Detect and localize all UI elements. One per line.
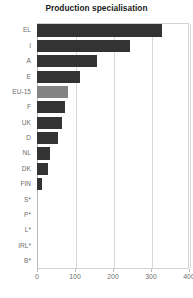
- category-label-dk: DK: [22, 166, 31, 173]
- category-label-f: F: [27, 104, 31, 111]
- bar-uk: [37, 117, 62, 129]
- bar-row: [37, 115, 189, 130]
- bar-e: [37, 71, 80, 83]
- category-label-row: I: [0, 38, 34, 53]
- bars-layer: [37, 23, 189, 269]
- category-label-i: I: [29, 43, 31, 50]
- bar-row: [37, 100, 189, 115]
- bar-row: [37, 146, 189, 161]
- xtick-mark-0: [37, 269, 38, 272]
- bar-row: [37, 38, 189, 53]
- bar-row: [37, 161, 189, 176]
- bar-i: [37, 40, 130, 52]
- category-label-b: B*: [24, 258, 31, 265]
- bar-row: [37, 85, 189, 100]
- category-label-a: A: [27, 58, 31, 65]
- bar-f: [37, 101, 65, 113]
- xtick-mark-400: [189, 269, 190, 272]
- category-label-fin: FIN: [20, 181, 31, 188]
- category-label-row: UK: [0, 115, 34, 130]
- bar-row: [37, 131, 189, 146]
- bar-row: [37, 254, 189, 269]
- gridline-400: [190, 24, 191, 268]
- category-label-row: DK: [0, 161, 34, 176]
- chart-title: Production specialisation: [0, 3, 193, 13]
- category-label-row: NL: [0, 146, 34, 161]
- xtick-mark-300: [151, 269, 152, 272]
- xtick-label-100: 100: [69, 274, 80, 281]
- category-label-row: P*: [0, 208, 34, 223]
- category-label-row: L*: [0, 223, 34, 238]
- category-label-row: EU-15: [0, 85, 34, 100]
- value-axis: 0100200300400: [37, 269, 189, 293]
- bar-el: [37, 24, 162, 36]
- xtick-label-200: 200: [107, 274, 118, 281]
- category-label-nl: NL: [23, 150, 31, 157]
- category-label-l: L*: [25, 227, 31, 234]
- category-label-eu-15: EU-15: [12, 89, 31, 96]
- category-label-row: S*: [0, 192, 34, 207]
- bar-chart: Production specialisation ELIAEEU-15FUKD…: [0, 0, 193, 298]
- xtick-mark-200: [113, 269, 114, 272]
- category-label-s: S*: [24, 197, 31, 204]
- bar-row: [37, 208, 189, 223]
- category-label-irl: IRL*: [18, 243, 31, 250]
- bar-dk: [37, 163, 48, 175]
- xtick-label-300: 300: [145, 274, 156, 281]
- bar-row: [37, 177, 189, 192]
- bar-eu-15: [37, 86, 68, 98]
- category-label-row: EL: [0, 23, 34, 38]
- xtick-label-0: 0: [35, 274, 39, 281]
- category-label-row: E: [0, 69, 34, 84]
- bar-row: [37, 223, 189, 238]
- bar-row: [37, 23, 189, 38]
- category-label-row: A: [0, 54, 34, 69]
- category-label-uk: UK: [22, 120, 31, 127]
- category-label-row: D: [0, 131, 34, 146]
- category-axis-labels: ELIAEEU-15FUKDNLDKFINS*P*L*IRL*B*: [0, 23, 34, 269]
- bar-d: [37, 132, 58, 144]
- bar-row: [37, 238, 189, 253]
- category-label-row: FIN: [0, 177, 34, 192]
- category-label-d: D: [26, 135, 31, 142]
- bar-row: [37, 69, 189, 84]
- bar-a: [37, 55, 97, 67]
- category-label-e: E: [27, 74, 31, 81]
- xtick-mark-100: [75, 269, 76, 272]
- category-label-row: IRL*: [0, 238, 34, 253]
- xtick-label-400: 400: [183, 274, 193, 281]
- bar-fin: [37, 178, 42, 190]
- category-label-row: F: [0, 100, 34, 115]
- bar-nl: [37, 147, 50, 159]
- category-label-p: P*: [24, 212, 31, 219]
- category-label-row: B*: [0, 254, 34, 269]
- bar-row: [37, 192, 189, 207]
- bar-row: [37, 54, 189, 69]
- category-label-el: EL: [23, 27, 31, 34]
